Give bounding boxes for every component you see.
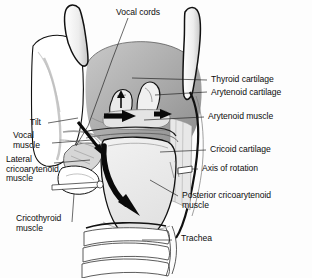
label-lateral-cricoarytenoid-muscle: Lateral cricoarytenoid muscle — [6, 155, 59, 184]
label-vocal-muscle: Vocal muscle — [13, 131, 40, 150]
label-thyroid-cartilage: Thyroid cartilage — [211, 75, 274, 85]
label-cricoid-cartilage: Cricoid cartilage — [210, 145, 271, 155]
label-posterior-cricoarytenoid-muscle: Posterior cricoarytenoid muscle — [182, 191, 271, 210]
label-arytenoid-cartilage: Arytenoid cartilage — [211, 88, 281, 98]
larynx-diagram: Vocal cords Thyroid cartilage Arytenoid … — [0, 0, 312, 278]
trachea — [82, 223, 177, 278]
cricothyroid-muscle — [58, 166, 99, 194]
larynx-illustration — [0, 0, 312, 278]
label-axis-of-rotation: Axis of rotation — [202, 164, 258, 174]
label-trachea: Trachea — [181, 234, 212, 244]
label-tilt: Tilt — [30, 118, 41, 128]
label-cricothyroid-muscle: Cricothyroid muscle — [16, 214, 61, 233]
label-vocal-cords: Vocal cords — [107, 8, 169, 18]
label-arytenoid-muscle: Arytenoid muscle — [208, 112, 273, 122]
trachea-ring-3 — [82, 259, 170, 278]
